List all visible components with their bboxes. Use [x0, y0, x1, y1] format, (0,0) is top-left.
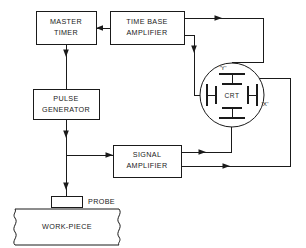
block-master-timer[interactable]: MASTER TIMER: [36, 11, 96, 44]
crt-x-axis-label: 'X': [261, 100, 268, 107]
pulse-generator-label-line2: GENERATOR: [42, 105, 90, 114]
crt-display[interactable]: CRT 'Y' 'X': [200, 63, 269, 127]
master-timer-label-line2: TIMER: [54, 28, 78, 37]
block-pulse-generator[interactable]: PULSE GENERATOR: [33, 89, 99, 119]
signal-amplifier-label-line2: AMPLIFIER: [126, 161, 167, 170]
schematic-svg: MASTER TIMER TIME BASE AMPLIFIER PULSE G…: [0, 0, 306, 248]
crt-center-label: CRT: [225, 92, 240, 99]
master-timer-label-line1: MASTER: [50, 17, 82, 26]
work-piece-label: WORK-PIECE: [42, 222, 92, 231]
probe-body: [51, 196, 82, 207]
work-piece[interactable]: WORK-PIECE: [14, 209, 120, 245]
wire-timebase-to-mastertimer: [96, 25, 110, 31]
block-signal-amplifier[interactable]: SIGNAL AMPLIFIER: [113, 145, 181, 177]
block-diagram-canvas: MASTER TIMER TIME BASE AMPLIFIER PULSE G…: [0, 0, 306, 248]
pulse-generator-label-line1: PULSE: [53, 94, 78, 103]
wire-pulsegen-to-signalamp: [66, 152, 113, 158]
time-base-amplifier-label-line1: TIME BASE: [126, 17, 168, 26]
wire-mastertimer-to-pulsegen: [63, 44, 69, 89]
probe-transducer[interactable]: PROBE: [51, 196, 115, 207]
wire-pulsegen-to-probe: [63, 119, 69, 196]
block-time-base-amplifier[interactable]: TIME BASE AMPLIFIER: [110, 11, 184, 44]
crt-y-axis-label: 'Y': [219, 64, 226, 71]
signal-amplifier-label-line1: SIGNAL: [133, 150, 161, 159]
time-base-amplifier-label-line2: AMPLIFIER: [126, 28, 167, 37]
probe-label: PROBE: [88, 197, 115, 206]
